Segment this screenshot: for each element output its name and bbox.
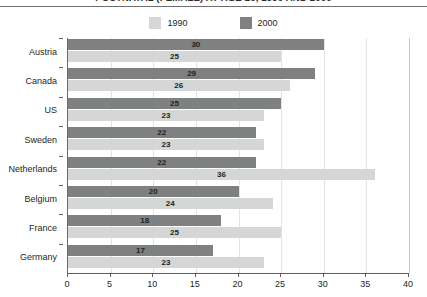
title-divider (0, 6, 427, 7)
category-tick (59, 38, 63, 39)
bar-rows: 30252926252322232236202418251723 (68, 38, 408, 273)
legend-label: 1990 (167, 19, 187, 28)
bar-value-label: 23 (68, 139, 264, 150)
category-label-austria: Austria (29, 48, 57, 57)
category-label-belgium: Belgium (24, 195, 57, 204)
category-label-germany: Germany (20, 253, 57, 262)
value-tick-40 (408, 273, 409, 277)
legend-swatch-icon (240, 17, 252, 29)
bar-value-label: 17 (68, 245, 213, 256)
value-tick-5 (110, 273, 111, 277)
value-tick-20 (238, 273, 239, 277)
category-tick (59, 156, 63, 157)
bar-value-label: 23 (68, 110, 264, 121)
category-tick (59, 244, 63, 245)
legend-item-2000[interactable]: 2000 (240, 17, 278, 29)
value-tick-label-35: 35 (360, 280, 370, 289)
bar-group-germany: 1723 (68, 244, 408, 273)
value-tick-label-15: 15 (190, 280, 200, 289)
chart-legend: 19902000 (0, 14, 427, 32)
legend-swatch-icon (149, 17, 161, 29)
value-axis: 0510152025303540 (67, 273, 408, 297)
category-tick (59, 97, 63, 98)
chart-title: POSTNATAL (FEMALE) AT AGE 20, 1990 AND 2… (0, 0, 427, 3)
value-tick-label-20: 20 (232, 280, 242, 289)
value-tick-35 (365, 273, 366, 277)
plot-area: 30252926252322232236202418251723 (67, 38, 408, 273)
category-tick (59, 126, 63, 127)
value-tick-label-10: 10 (147, 280, 157, 289)
bar-value-label: 25 (68, 51, 281, 62)
value-tick-25 (280, 273, 281, 277)
bar-group-sweden: 2223 (68, 126, 408, 155)
category-label-canada: Canada (25, 77, 57, 86)
bar-group-netherlands: 2236 (68, 156, 408, 185)
bar-group-france: 1825 (68, 214, 408, 243)
category-label-sweden: Sweden (24, 136, 57, 145)
value-tick-label-40: 40 (403, 280, 413, 289)
bar-group-us: 2523 (68, 97, 408, 126)
bar-value-label: 20 (68, 186, 239, 197)
bar-group-austria: 3025 (68, 38, 408, 67)
bar-value-label: 24 (68, 198, 273, 209)
category-label-france: France (29, 224, 57, 233)
bar-group-belgium: 2024 (68, 185, 408, 214)
category-tick (59, 67, 63, 68)
category-label-us: US (44, 106, 57, 115)
value-tick-0 (67, 273, 68, 277)
value-tick-label-25: 25 (275, 280, 285, 289)
bar-value-label: 22 (68, 157, 256, 168)
value-tick-label-0: 0 (64, 280, 69, 289)
legend-item-1990[interactable]: 1990 (149, 17, 187, 29)
bar-value-label: 18 (68, 215, 221, 226)
bar-value-label: 22 (68, 127, 256, 138)
bar-value-label: 30 (68, 39, 324, 50)
bar-value-label: 23 (68, 257, 264, 268)
value-tick-10 (152, 273, 153, 277)
bar-value-label: 25 (68, 98, 281, 109)
bar-value-label: 26 (68, 80, 290, 91)
value-tick-30 (323, 273, 324, 277)
category-tick (59, 214, 63, 215)
bar-value-label: 25 (68, 227, 281, 238)
bar-value-label: 29 (68, 68, 315, 79)
bar-value-label: 36 (68, 169, 375, 180)
value-tick-label-5: 5 (107, 280, 112, 289)
legend-label: 2000 (258, 19, 278, 28)
value-tick-15 (195, 273, 196, 277)
category-tick (59, 185, 63, 186)
bar-group-canada: 2926 (68, 67, 408, 96)
gridline-40 (409, 38, 410, 273)
value-tick-label-30: 30 (318, 280, 328, 289)
category-label-netherlands: Netherlands (8, 165, 57, 174)
category-axis: AustriaCanadaUSSwedenNetherlandsBelgiumF… (0, 38, 63, 273)
